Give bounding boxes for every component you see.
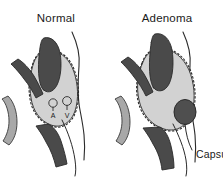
capsule-label: Capsule (196, 148, 223, 160)
artery-label: A (51, 112, 56, 119)
panel-adenoma-title: Adenoma (142, 12, 193, 24)
adenoma-nodule (174, 100, 196, 125)
panel-normal-title: Normal (37, 12, 75, 24)
vein-label: V (65, 112, 70, 119)
parathyroid-comparison-figure: Normal A V Ade (0, 0, 223, 177)
gland-circle-v (63, 97, 72, 106)
vessel-dark-upper-pole (38, 38, 61, 92)
vessel-dark-upper-pole-right (149, 34, 173, 91)
gland-circle-a (49, 99, 57, 107)
